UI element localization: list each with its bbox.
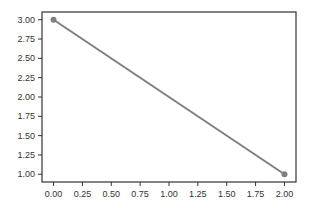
series-line	[54, 20, 285, 175]
x-tick-label: 1.00	[160, 189, 178, 199]
y-tick-label: 1.75	[17, 111, 35, 121]
x-tick-label: 1.75	[247, 189, 265, 199]
data-point-marker	[281, 171, 287, 177]
x-tick-label: 0.00	[45, 189, 63, 199]
y-tick-label: 1.00	[17, 169, 35, 179]
x-tick-label: 0.25	[74, 189, 92, 199]
data-point-marker	[51, 17, 57, 23]
x-tick-label: 0.50	[103, 189, 121, 199]
data-series	[51, 17, 288, 178]
x-tick-label: 2.00	[276, 189, 294, 199]
x-tick-label: 1.25	[189, 189, 207, 199]
y-tick-label: 2.50	[17, 53, 35, 63]
y-tick-label: 2.25	[17, 73, 35, 83]
y-axis-ticks: 1.001.251.501.752.002.252.502.753.00	[17, 15, 42, 180]
y-tick-label: 2.00	[17, 92, 35, 102]
y-tick-label: 1.25	[17, 150, 35, 160]
y-tick-label: 1.50	[17, 131, 35, 141]
x-axis-ticks: 0.000.250.500.751.001.251.501.752.00	[45, 182, 293, 199]
x-tick-label: 0.75	[131, 189, 149, 199]
line-chart: 1.001.251.501.752.002.252.502.753.00 0.0…	[0, 0, 309, 208]
x-tick-label: 1.50	[218, 189, 236, 199]
y-tick-label: 2.75	[17, 34, 35, 44]
y-tick-label: 3.00	[17, 15, 35, 25]
